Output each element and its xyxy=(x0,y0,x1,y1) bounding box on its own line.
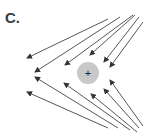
field-lines-diagram: + xyxy=(0,0,147,139)
plus-icon: + xyxy=(85,67,91,79)
field-arrow xyxy=(65,15,133,65)
field-arrow xyxy=(35,77,118,128)
field-arrow xyxy=(27,19,108,58)
field-arrow xyxy=(35,17,120,72)
field-arrow xyxy=(90,15,135,55)
positive-charge: + xyxy=(77,62,99,84)
